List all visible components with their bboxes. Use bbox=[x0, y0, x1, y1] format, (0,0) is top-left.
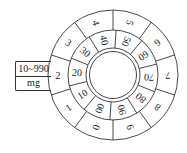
outer-ring-label: 8 bbox=[152, 101, 163, 113]
outer-divider bbox=[75, 111, 87, 127]
inner-ring-label: 40 bbox=[98, 34, 111, 46]
inner-divider bbox=[139, 64, 156, 68]
outer-ring-label: 7 bbox=[166, 70, 171, 81]
inner-divider bbox=[69, 82, 86, 86]
outer-ring-label: 9 bbox=[124, 123, 136, 131]
outer-divider bbox=[51, 89, 70, 95]
weight-dial[interactable]: 0123456789 00102030405060708090 bbox=[0, 0, 187, 153]
outer-divider bbox=[139, 111, 151, 127]
inner-divider bbox=[138, 85, 155, 92]
inner-divider bbox=[71, 58, 88, 65]
outer-divider bbox=[139, 22, 151, 38]
inner-circle-outer bbox=[86, 48, 140, 102]
outer-ring-label: 4 bbox=[90, 19, 102, 27]
inner-ring-label: 80 bbox=[133, 91, 148, 106]
inner-ring-label: 10 bbox=[75, 87, 89, 102]
outer-ring-label: 3 bbox=[63, 37, 74, 49]
inner-ring-label: 30 bbox=[78, 44, 93, 59]
outer-divider bbox=[156, 89, 175, 95]
inner-ring-label: 70 bbox=[144, 72, 155, 84]
inner-ring-label: 00 bbox=[93, 102, 107, 115]
inner-ring-label: 90 bbox=[115, 104, 128, 116]
inner-ring-label: 60 bbox=[136, 49, 150, 64]
inner-ring-labels: 00102030405060708090 bbox=[72, 34, 155, 116]
outer-ring-label: 2 bbox=[56, 70, 61, 81]
outer-divider bbox=[75, 22, 87, 38]
outer-divider bbox=[51, 55, 70, 61]
outer-ring-label: 1 bbox=[63, 101, 74, 113]
outer-ring-label: 6 bbox=[152, 37, 163, 49]
outer-ring-label: 0 bbox=[90, 123, 102, 131]
outer-divider bbox=[156, 55, 175, 61]
inner-ring-label: 50 bbox=[120, 35, 134, 48]
inner-circle-inner bbox=[90, 52, 137, 99]
sector-dividers bbox=[51, 10, 175, 140]
inner-divider bbox=[115, 30, 116, 48]
outer-ring-label: 5 bbox=[124, 19, 136, 27]
inner-divider bbox=[110, 102, 111, 120]
inner-ring-label: 20 bbox=[72, 67, 83, 79]
